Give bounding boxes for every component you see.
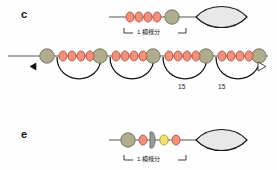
small-bead bbox=[192, 51, 200, 61]
left-triangle-marker-icon bbox=[30, 63, 36, 70]
large-bead bbox=[40, 49, 54, 63]
panel-c-group bbox=[109, 7, 247, 34]
small-bead bbox=[174, 51, 182, 61]
right-triangle-marker-icon bbox=[258, 62, 266, 71]
loop-size-label-left: 15 bbox=[178, 84, 185, 91]
large-bead bbox=[165, 10, 179, 24]
large-bead bbox=[93, 49, 107, 63]
small-bead bbox=[126, 12, 134, 22]
scale-label-panel-c: 1 模様分 bbox=[137, 29, 160, 35]
figure-canvas: c e 1 模様分 1 模様分 15 15 bbox=[0, 0, 277, 170]
panel-letter-e: e bbox=[21, 129, 27, 140]
large-bead bbox=[199, 49, 213, 63]
panel-d-group bbox=[8, 49, 268, 79]
yellow-bead bbox=[160, 135, 168, 145]
gray-plate bbox=[150, 132, 155, 148]
large-bead bbox=[146, 49, 160, 63]
small-bead bbox=[86, 51, 94, 61]
diagram-vector-layer bbox=[0, 0, 277, 170]
small-bead bbox=[165, 51, 173, 61]
orange-bead bbox=[172, 135, 180, 145]
small-bead bbox=[112, 51, 120, 61]
small-bead bbox=[218, 51, 226, 61]
small-bead bbox=[227, 51, 235, 61]
small-bead bbox=[77, 51, 85, 61]
panel-letter-c: c bbox=[21, 9, 27, 20]
lens-body bbox=[196, 7, 247, 28]
small-bead bbox=[59, 51, 67, 61]
small-bead bbox=[135, 12, 143, 22]
small-bead bbox=[130, 51, 138, 61]
scale-label-panel-e: 1 模様分 bbox=[137, 156, 160, 162]
small-bead bbox=[183, 51, 191, 61]
small-bead bbox=[236, 51, 244, 61]
small-bead bbox=[245, 51, 253, 61]
orange-bead bbox=[139, 135, 147, 145]
panel-e-group bbox=[109, 130, 247, 161]
large-bead bbox=[252, 49, 266, 63]
large-bead bbox=[121, 133, 135, 147]
small-bead bbox=[153, 12, 161, 22]
small-bead bbox=[68, 51, 76, 61]
loop-size-label-right: 15 bbox=[218, 84, 225, 91]
small-bead bbox=[121, 51, 129, 61]
small-bead bbox=[144, 12, 152, 22]
small-bead bbox=[139, 51, 147, 61]
lens-body bbox=[196, 130, 247, 151]
